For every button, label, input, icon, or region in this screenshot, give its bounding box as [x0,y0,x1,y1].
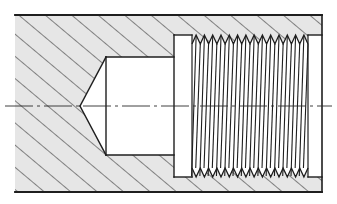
technical-drawing [0,0,337,204]
